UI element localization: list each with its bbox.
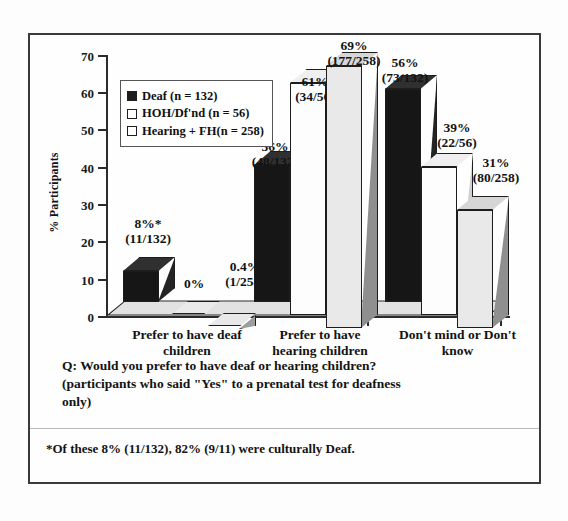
legend-label-hearing: Hearing + FH(n = 258) — [142, 124, 264, 139]
bar-group3-hearing — [457, 210, 509, 328]
y-tick-label-20: 20 — [64, 235, 94, 251]
y-axis-tick-labels: 70 60 50 40 30 20 10 0 — [54, 35, 94, 335]
y-tick-70 — [98, 55, 108, 57]
value-label-group3-deaf: 56% (73/132) — [360, 56, 450, 85]
caption-line-3: only) — [62, 393, 512, 411]
x-axis-line — [106, 316, 510, 318]
y-tick-label-10: 10 — [64, 273, 94, 289]
bar-side-face — [361, 52, 378, 328]
legend-swatch-hoh-icon — [127, 109, 137, 119]
x-category-label-2: Prefer to have hearing children — [245, 327, 395, 359]
bar-side-face — [492, 196, 509, 328]
x-category-label-3: Don't mind or Don't know — [375, 327, 540, 359]
legend-label-deaf: Deaf (n = 132) — [142, 89, 218, 104]
figure-caption: Q: Would you prefer to have deaf or hear… — [62, 357, 512, 410]
legend-swatch-deaf-icon — [127, 91, 137, 101]
y-tick-label-40: 40 — [64, 161, 94, 177]
category-line-1: Prefer to have — [245, 327, 395, 343]
chart-area: % Participants 70 60 50 40 30 20 10 0 — [30, 35, 539, 345]
value-fraction: (22/56) — [414, 136, 500, 151]
y-tick-10 — [98, 279, 108, 281]
value-label-group1-deaf: 8%* (11/132) — [103, 217, 193, 246]
value-pct: 39% — [414, 121, 500, 136]
value-pct: 69% — [306, 39, 402, 54]
y-tick-40 — [98, 167, 108, 169]
caption-line-1: Q: Would you prefer to have deaf or hear… — [62, 357, 512, 375]
value-pct: 31% — [450, 156, 542, 171]
y-tick-30 — [98, 204, 108, 206]
value-pct: 56% — [360, 56, 450, 71]
y-tick-label-70: 70 — [64, 49, 94, 65]
bar-front-face — [123, 271, 159, 302]
value-pct: 8%* — [103, 217, 193, 232]
bar-front-face — [254, 165, 290, 302]
legend-swatch-hearing-icon — [127, 126, 137, 136]
bar-group2-hearing — [326, 66, 378, 328]
chart-legend: Deaf (n = 132) HOH/Df'nd (n = 56) Hearin… — [120, 80, 273, 147]
y-tick-label-0: 0 — [64, 310, 94, 326]
legend-label-hoh: HOH/Df'nd (n = 56) — [142, 106, 249, 121]
bar-front-face — [421, 167, 457, 315]
caption-line-2: (participants who said "Yes" to a prenat… — [62, 375, 512, 393]
value-fraction: (80/258) — [450, 171, 542, 186]
bar-top-face — [123, 257, 175, 271]
y-tick-50 — [98, 129, 108, 131]
value-label-group3-hoh: 39% (22/56) — [414, 121, 500, 150]
value-label-group3-hearing: 31% (80/258) — [450, 156, 542, 185]
category-line-1: Don't mind or Don't — [375, 327, 540, 343]
legend-item-deaf: Deaf (n = 132) — [127, 89, 264, 104]
y-tick-label-60: 60 — [64, 86, 94, 102]
bar-front-face — [457, 210, 493, 328]
legend-item-hearing: Hearing + FH(n = 258) — [127, 124, 264, 139]
value-fraction: (11/132) — [103, 232, 193, 247]
caption-divider — [30, 428, 539, 429]
legend-item-hoh: HOH/Df'nd (n = 56) — [127, 106, 264, 121]
figure-frame: % Participants 70 60 50 40 30 20 10 0 — [28, 33, 541, 484]
bar-front-face — [326, 66, 362, 328]
y-tick-label-30: 30 — [64, 198, 94, 214]
bar-front-face — [290, 83, 326, 315]
value-fraction: (73/132) — [360, 71, 450, 86]
y-tick-60 — [98, 92, 108, 94]
figure-footnote: *Of these 8% (11/132), 82% (9/11) were c… — [46, 441, 516, 457]
y-tick-label-50: 50 — [64, 123, 94, 139]
bar-group1-hoh — [172, 313, 220, 315]
